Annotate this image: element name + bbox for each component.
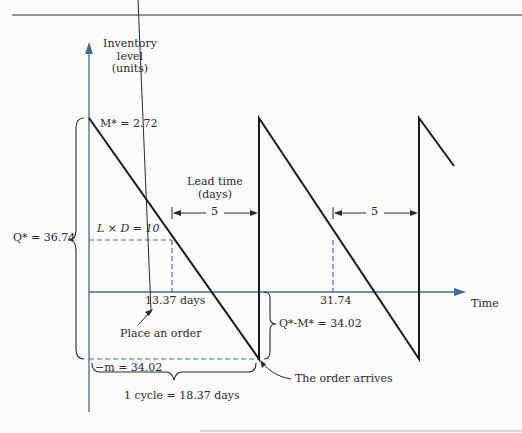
lead-time-title-line1: Lead time [184, 176, 246, 189]
y-axis-arrow-icon [85, 42, 93, 54]
lead-time-value-2: 5 [371, 206, 378, 219]
order-arrives-label: The order arrives [295, 373, 393, 386]
order-day-1-label: 13.37 days [145, 295, 205, 308]
x-axis-arrow-icon [454, 288, 466, 296]
order-day-2-label: 31.74 [320, 295, 352, 308]
inventory-diagram: Inventory level (units) M* = 2.72 Q* = 3… [0, 0, 522, 433]
place-order-label: Place an order [120, 328, 201, 341]
y-axis-title-line3: (units) [100, 63, 160, 76]
min-level-label: −m = 34.02 [95, 362, 162, 375]
lead-time-title: Lead time (days) [184, 176, 246, 201]
diagram-canvas [0, 0, 522, 433]
reorder-level-label: L × D = 10 [97, 223, 160, 236]
lead-time-1-left-arrow-icon [173, 210, 181, 216]
order-arrives-arrow-icon [260, 360, 266, 368]
shortage-brace [264, 292, 276, 359]
shortage-label: Q*-M* = 34.02 [279, 318, 362, 331]
q-star-label: Q* = 36.74 [13, 232, 75, 245]
lead-time-1-right-arrow-icon [250, 210, 258, 216]
lead-time-2-right-arrow-icon [410, 210, 418, 216]
cycle-label: 1 cycle = 18.37 days [124, 390, 240, 403]
y-axis-title-line1: Inventory [100, 38, 160, 51]
m-star-label: M* = 2.72 [100, 118, 157, 131]
lead-time-value-1: 5 [211, 206, 218, 219]
lead-time-2-left-arrow-icon [334, 210, 342, 216]
x-axis-title: Time [471, 298, 499, 311]
order-arrives-pointer [262, 362, 291, 379]
place-order-arrow-icon [145, 309, 153, 316]
lead-time-title-line2: (days) [184, 189, 246, 202]
y-axis-title: Inventory level (units) [100, 38, 160, 76]
